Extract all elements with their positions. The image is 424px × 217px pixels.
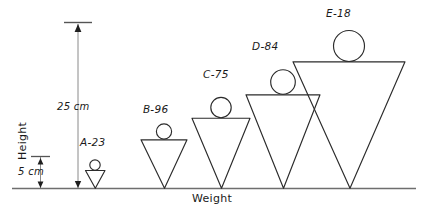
figure-e-18	[293, 31, 405, 189]
figure-d-84	[246, 70, 320, 189]
figure-label-d: D-84	[252, 40, 278, 52]
figure-label-c: C-75	[203, 68, 229, 80]
figure-a-23	[86, 160, 106, 189]
figure-b-96	[141, 124, 187, 188]
figure-label-b: B-96	[143, 103, 168, 115]
short-measure-label: 5 cm	[18, 166, 44, 177]
tall-measure-label: 25 cm	[57, 101, 90, 112]
x-axis-label: Weight	[192, 192, 232, 205]
y-axis-label: Height	[16, 122, 29, 160]
figure-c-75	[192, 97, 250, 188]
figure-label-a: A-23	[80, 136, 106, 148]
diagram-canvas: Height Weight 25 cm 5 cm A-23 B-96 C-75 …	[0, 0, 424, 217]
figure-label-e: E-18	[326, 7, 351, 19]
